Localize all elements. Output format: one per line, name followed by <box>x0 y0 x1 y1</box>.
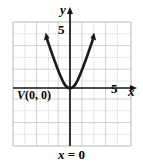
parabola-figure <box>0 0 143 163</box>
vertex-label-prefix: V <box>17 88 25 102</box>
vertex-label-point: (0, 0) <box>25 88 51 102</box>
y-axis-label: y <box>60 3 66 16</box>
equation-value: 0 <box>78 147 85 162</box>
x-axis-tick-label-5: 5 <box>111 82 118 95</box>
x-axis-label: x <box>128 85 135 98</box>
vertex-label: V(0, 0) <box>17 89 51 101</box>
y-axis-arrow <box>67 7 73 14</box>
equation-caption: x = 0 <box>0 147 143 163</box>
y-axis-tick-label-5: 5 <box>58 23 65 36</box>
equation-operator: = <box>65 147 79 162</box>
